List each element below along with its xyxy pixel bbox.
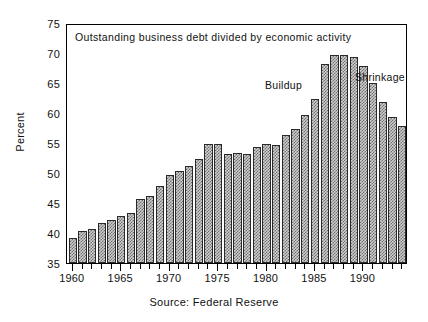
x-tick-mark bbox=[275, 264, 276, 269]
x-tick-mark bbox=[285, 264, 286, 269]
bar bbox=[195, 159, 203, 263]
x-tick-mark bbox=[198, 264, 199, 269]
bar bbox=[340, 55, 348, 263]
x-tick-mark bbox=[314, 264, 315, 271]
x-tick-mark bbox=[82, 264, 83, 269]
y-tick-label: 60 bbox=[0, 108, 66, 120]
x-tick-mark bbox=[392, 264, 393, 269]
x-tick-mark bbox=[237, 264, 238, 269]
x-tick-mark bbox=[140, 264, 141, 269]
x-tick-mark bbox=[217, 264, 218, 271]
chart-figure: Percent 354045505560657075 1960196519701… bbox=[0, 0, 428, 322]
y-tick-label: 75 bbox=[0, 18, 66, 30]
x-tick-mark bbox=[120, 264, 121, 271]
x-tick-label: 1960 bbox=[59, 272, 84, 284]
y-tick-label: 50 bbox=[0, 168, 66, 180]
bar bbox=[398, 126, 406, 263]
plot-area: Outstanding business debt divided by eco… bbox=[66, 24, 407, 264]
x-tick-mark bbox=[343, 264, 344, 269]
x-tick-label: 1970 bbox=[156, 272, 181, 284]
x-tick-mark bbox=[178, 264, 179, 269]
bar bbox=[243, 154, 251, 263]
x-tick-mark bbox=[227, 264, 228, 269]
source-caption: Source: Federal Reserve bbox=[0, 296, 428, 308]
x-tick-mark bbox=[111, 264, 112, 269]
x-tick-mark bbox=[362, 264, 363, 271]
bar bbox=[282, 135, 290, 263]
x-tick-mark bbox=[401, 264, 402, 269]
x-tick-mark bbox=[159, 264, 160, 269]
x-tick-mark bbox=[382, 264, 383, 269]
y-tick-label: 70 bbox=[0, 48, 66, 60]
y-tick-label: 65 bbox=[0, 78, 66, 90]
x-tick-mark bbox=[333, 264, 334, 269]
bar bbox=[88, 229, 96, 263]
bar bbox=[262, 144, 270, 263]
x-tick-mark bbox=[324, 264, 325, 269]
bar bbox=[136, 199, 144, 263]
x-tick-mark bbox=[72, 264, 73, 271]
bar bbox=[359, 66, 367, 263]
bar bbox=[166, 175, 174, 263]
x-tick-mark bbox=[207, 264, 208, 269]
x-tick-label: 1990 bbox=[350, 272, 375, 284]
y-tick-label: 55 bbox=[0, 138, 66, 150]
bar bbox=[224, 154, 232, 263]
bar-series bbox=[67, 25, 406, 263]
y-tick-label: 45 bbox=[0, 198, 66, 210]
annotation-buildup: Buildup bbox=[265, 79, 302, 91]
bar bbox=[78, 231, 86, 263]
annotation-shrinkage: Shrinkage bbox=[355, 71, 405, 83]
bar bbox=[214, 144, 222, 263]
x-tick-mark bbox=[353, 264, 354, 269]
bar bbox=[311, 99, 319, 263]
bar bbox=[98, 223, 106, 263]
x-tick-label: 1980 bbox=[253, 272, 278, 284]
bar bbox=[233, 153, 241, 263]
bar bbox=[272, 145, 280, 263]
x-tick-mark bbox=[188, 264, 189, 269]
x-tick-mark bbox=[149, 264, 150, 269]
x-tick-label: 1985 bbox=[301, 272, 326, 284]
bar bbox=[69, 238, 77, 263]
bar bbox=[350, 57, 358, 263]
bar bbox=[291, 129, 299, 263]
x-tick-label: 1965 bbox=[108, 272, 133, 284]
bar bbox=[301, 115, 309, 263]
x-tick-mark bbox=[256, 264, 257, 269]
bar bbox=[175, 171, 183, 263]
x-tick-mark bbox=[372, 264, 373, 269]
bar bbox=[185, 166, 193, 263]
bar bbox=[146, 196, 154, 263]
x-tick-mark bbox=[266, 264, 267, 271]
bar bbox=[321, 64, 329, 263]
x-tick-label: 1975 bbox=[204, 272, 229, 284]
x-tick-mark bbox=[130, 264, 131, 269]
y-tick-label: 35 bbox=[0, 258, 66, 270]
x-tick-mark bbox=[101, 264, 102, 269]
x-tick-mark bbox=[169, 264, 170, 271]
bar bbox=[107, 220, 115, 263]
bar bbox=[253, 147, 261, 263]
bar bbox=[388, 117, 396, 263]
y-tick-label: 40 bbox=[0, 228, 66, 240]
bar bbox=[330, 55, 338, 263]
chart-title: Outstanding business debt divided by eco… bbox=[75, 31, 351, 43]
x-tick-mark bbox=[304, 264, 305, 269]
bar bbox=[204, 144, 212, 263]
bar bbox=[117, 216, 125, 263]
bar bbox=[156, 186, 164, 263]
x-tick-mark bbox=[91, 264, 92, 269]
bar bbox=[369, 83, 377, 263]
x-tick-mark bbox=[246, 264, 247, 269]
bar bbox=[379, 102, 387, 263]
x-tick-mark bbox=[295, 264, 296, 269]
bar bbox=[127, 213, 135, 263]
y-axis-title: Percent bbox=[14, 92, 26, 172]
